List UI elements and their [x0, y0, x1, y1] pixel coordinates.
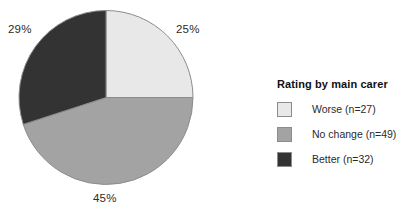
pie-chart-plot-area: 29% 25% 45%: [0, 0, 212, 213]
legend-item-better[interactable]: Better (n=32): [277, 151, 399, 167]
legend-label-better: Better (n=32): [312, 154, 374, 165]
pie-percent-label-worse: 25%: [176, 24, 200, 36]
pie-percent-label-no-change: 45%: [93, 193, 117, 205]
legend-item-worse[interactable]: Worse (n=27): [277, 101, 399, 117]
legend-label-no-change: No change (n=49): [312, 129, 396, 140]
legend-label-worse: Worse (n=27): [312, 104, 376, 115]
legend-swatch-worse: [277, 102, 292, 117]
chart-legend: Rating by main carer Worse (n=27) No cha…: [277, 78, 399, 167]
pie-chart-figure: 29% 25% 45% Rating by main carer Worse (…: [0, 0, 399, 213]
legend-swatch-no-change: [277, 127, 292, 142]
legend-item-no-change[interactable]: No change (n=49): [277, 126, 399, 142]
legend-title: Rating by main carer: [277, 78, 399, 90]
legend-swatch-better: [277, 152, 292, 167]
pie-percent-label-better: 29%: [8, 24, 32, 36]
